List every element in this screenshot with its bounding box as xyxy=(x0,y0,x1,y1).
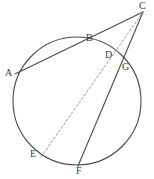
point-label-c: C xyxy=(139,1,146,11)
point-label-a: A xyxy=(5,68,12,78)
point-label-f: F xyxy=(76,166,82,176)
geometry-figure: A B C D E F G xyxy=(0,0,154,179)
point-label-b: B xyxy=(86,33,93,43)
main-circle xyxy=(13,37,141,165)
point-label-d: D xyxy=(105,50,112,60)
geometry-canvas xyxy=(0,0,154,179)
point-label-e: E xyxy=(30,149,36,159)
point-label-g: G xyxy=(122,62,129,72)
